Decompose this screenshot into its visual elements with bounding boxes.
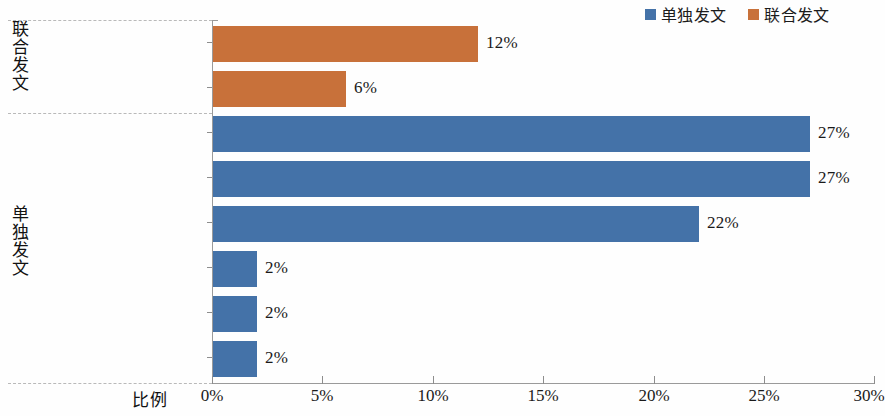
bar-value-label: 2% bbox=[265, 303, 288, 323]
bar-state-council bbox=[213, 116, 810, 152]
bar-nhc bbox=[213, 206, 699, 242]
x-axis-tick-label: 20% bbox=[638, 386, 669, 406]
bar-joint-3-plus bbox=[213, 26, 478, 62]
bar-nmpa bbox=[213, 161, 810, 197]
y-axis-tick bbox=[207, 222, 212, 223]
bar-chart-figure: 单独发文 联合发文 联合发文 单独发文 3 个及以上机构联合 2 个机构联合 国… bbox=[0, 0, 885, 416]
x-axis-tick-label: 0% bbox=[201, 386, 224, 406]
x-axis-title: 比例 bbox=[132, 386, 168, 411]
legend-swatch-orange bbox=[748, 9, 759, 20]
x-axis-tick-label: 30% bbox=[853, 386, 884, 406]
x-axis-tick-label: 5% bbox=[311, 386, 334, 406]
bar-value-label: 6% bbox=[354, 78, 377, 98]
bar-samr bbox=[213, 296, 257, 332]
y-axis-tick bbox=[207, 42, 212, 43]
x-axis-tick-label: 10% bbox=[417, 386, 448, 406]
x-axis-tick bbox=[212, 376, 213, 384]
bar-value-label: 2% bbox=[265, 258, 288, 278]
bar-value-label: 27% bbox=[818, 168, 850, 188]
bar-nhsa bbox=[213, 341, 257, 377]
group-label-single: 单独发文 bbox=[6, 205, 31, 325]
x-axis-tick bbox=[433, 376, 434, 384]
y-axis-tick bbox=[207, 267, 212, 268]
x-axis-tick-label: 15% bbox=[527, 386, 558, 406]
bar-value-label: 12% bbox=[486, 33, 518, 53]
bar-value-label: 2% bbox=[265, 348, 288, 368]
y-axis-tick bbox=[207, 312, 212, 313]
y-axis-tick bbox=[207, 87, 212, 88]
y-axis-tick bbox=[207, 357, 212, 358]
x-axis-tick bbox=[654, 376, 655, 384]
bar-value-label: 27% bbox=[818, 123, 850, 143]
group-separator-top bbox=[8, 20, 212, 21]
y-axis-tick bbox=[207, 132, 212, 133]
y-axis-tick bbox=[207, 177, 212, 178]
legend-swatch-blue bbox=[645, 9, 656, 20]
bar-joint-2 bbox=[213, 71, 346, 107]
group-separator-bottom bbox=[8, 383, 212, 384]
bar-npc bbox=[213, 251, 257, 287]
plot-area: 12% 6% 27% 27% 22% 2% 2% 2% bbox=[212, 20, 875, 383]
x-axis-tick bbox=[874, 376, 875, 384]
x-axis-tick-label: 25% bbox=[748, 386, 779, 406]
group-separator-middle bbox=[8, 113, 212, 114]
x-axis-tick bbox=[543, 376, 544, 384]
y-axis-top-cap bbox=[212, 20, 218, 21]
x-axis-tick bbox=[764, 376, 765, 384]
bar-value-label: 22% bbox=[707, 213, 739, 233]
x-axis-tick bbox=[322, 376, 323, 384]
group-label-joint: 联合发文 bbox=[6, 20, 31, 112]
